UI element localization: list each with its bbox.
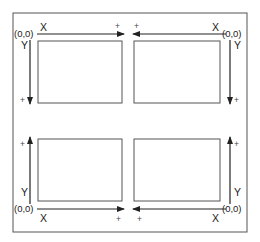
quadrant-top-left: (0,0) X Y + + [14, 21, 124, 105]
quadrant-bottom-right: (0,0) X Y + + [133, 137, 242, 224]
origin-label: (0,0) [222, 203, 242, 214]
y-plus-label: + [20, 95, 25, 105]
screen-rect [38, 139, 122, 201]
coordinate-orientation-diagram: (0,0) X Y + + (0,0) X Y + + (0,0) X Y + … [0, 0, 260, 242]
screen-rect [134, 41, 220, 103]
x-axis-label: X [40, 21, 47, 33]
y-axis-label: Y [21, 39, 28, 51]
x-plus-label: + [115, 21, 120, 31]
x-axis-label: X [40, 212, 47, 224]
y-plus-label: + [234, 95, 239, 105]
x-plus-label: + [137, 214, 142, 224]
origin-label: (0,0) [222, 28, 242, 39]
quadrant-top-right: (0,0) X Y + + [133, 21, 242, 105]
x-axis-label: X [212, 21, 219, 33]
y-axis-label: Y [234, 186, 241, 198]
y-axis-label: Y [234, 39, 241, 51]
x-axis-label: X [212, 212, 219, 224]
x-plus-label: + [116, 214, 121, 224]
screen-rect [134, 139, 220, 201]
x-plus-label: + [134, 21, 139, 31]
origin-label: (0,0) [14, 203, 34, 214]
origin-label: (0,0) [14, 28, 34, 39]
quadrant-bottom-left: (0,0) X Y + + [14, 137, 124, 224]
y-axis-label: Y [21, 186, 28, 198]
y-plus-label: + [20, 139, 25, 149]
screen-rect [38, 41, 122, 103]
y-plus-label: + [234, 139, 239, 149]
